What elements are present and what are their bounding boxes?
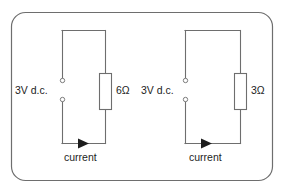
left-supply-terminal-positive [60,78,64,82]
right-supply-label: 3V d.c. [141,85,174,96]
diagram-border [12,13,273,181]
right-current-label: current [189,152,222,163]
circuit-diagram-figure: 3V d.c. 6Ω current 3V d.c. 3Ω current [0,0,284,194]
diagram-canvas [0,0,284,194]
left-circuit-group [60,31,111,149]
left-supply-terminal-negative [60,97,64,101]
right-circuit-group [183,31,246,149]
right-current-arrow-icon [201,139,212,149]
left-current-label: current [64,152,97,163]
left-resistor-symbol [100,74,112,110]
left-current-arrow-icon [78,139,89,149]
right-resistor-symbol [235,74,247,110]
left-resistor-label: 6Ω [116,85,130,96]
right-supply-terminal-negative [183,97,187,101]
right-supply-terminal-positive [183,78,187,82]
right-resistor-label: 3Ω [251,85,265,96]
left-supply-label: 3V d.c. [15,85,48,96]
